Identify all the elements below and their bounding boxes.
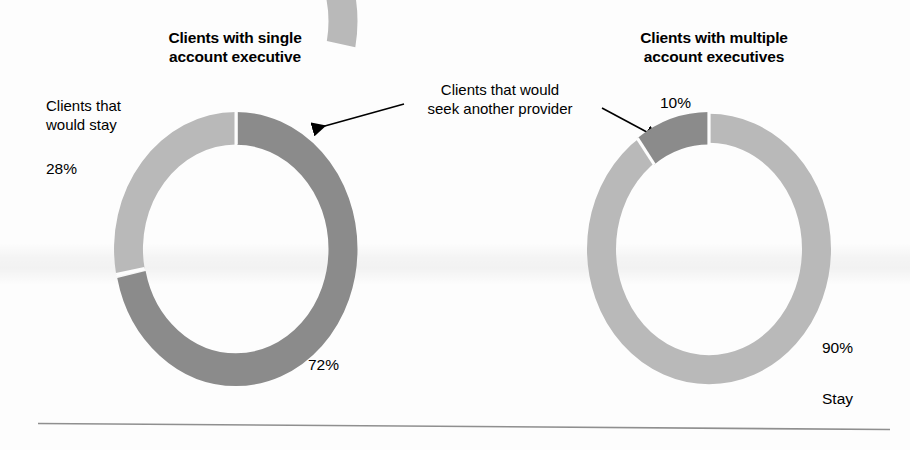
right-chart-title: Clients with multiple account executives [600,28,828,66]
left-chart-title-line2: account executive [126,47,344,66]
right-donut-chart [587,111,831,387]
left-stay-label-line2: would stay [46,115,121,134]
left-seek-value: 72% [308,356,339,374]
shared-annotation-line1: Clients that would [375,80,625,99]
right-stay-label: Stay [822,390,853,408]
left-stay-label-line1: Clients that [46,96,121,115]
right-slice-stay [602,128,817,369]
left-donut-overlay [114,111,358,387]
left-slice-stay-wedge [114,112,236,275]
right-chart-title-line2: account executives [600,47,828,66]
leader-line-left [314,104,404,129]
annotation-leader-left [300,100,410,140]
chart-canvas: Clients with single account executive Cl… [0,0,910,450]
bottom-divider-rule [0,415,910,439]
left-chart-title: Clients with single account executive [126,28,344,66]
left-chart-title-line1: Clients with single [126,28,344,47]
right-chart-title-line1: Clients with multiple [600,28,828,47]
left-stay-value: 28% [46,160,77,178]
divider-line [38,424,890,430]
right-stay-value: 90% [822,339,853,357]
right-seek-value: 10% [660,94,691,112]
left-stay-label: Clients that would stay [46,96,121,134]
